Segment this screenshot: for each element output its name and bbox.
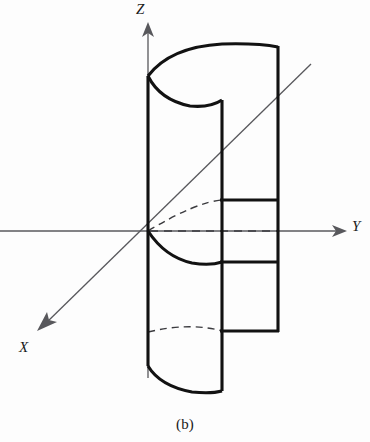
bottom-front-arc [148, 366, 222, 393]
mid-hidden-back-arc [148, 200, 222, 231]
figure-caption: (b) [0, 416, 370, 433]
top-rim-lower-arc [148, 76, 222, 106]
axis-group-y [0, 225, 347, 237]
mid-front-arc [148, 231, 222, 264]
z-axis-label: Z [136, 2, 144, 17]
y-axis-label: Y [352, 219, 360, 234]
x-axis-label: X [19, 340, 28, 355]
top-rim-upper-arc [148, 44, 278, 76]
surface-diagram-canvas [0, 0, 370, 442]
axis-group-x [37, 64, 311, 331]
bottom-hidden-back-arc [148, 327, 222, 332]
figure-root: Z Y X (b) [0, 0, 370, 442]
